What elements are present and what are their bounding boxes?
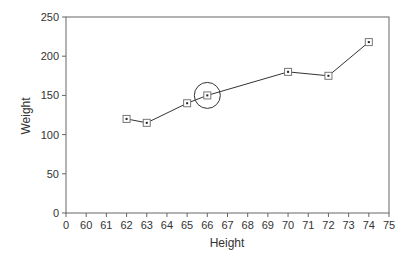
x-tick-label: 67 [221, 219, 233, 231]
x-tick-label: 65 [181, 219, 193, 231]
x-tick-label: 61 [100, 219, 112, 231]
x-tick-label: 75 [383, 219, 395, 231]
x-tick-label: 63 [141, 219, 153, 231]
axes: 0606162636465666768697071727374750501001… [41, 11, 395, 231]
data-point-dot [206, 94, 208, 96]
x-tick-label: 0 [63, 219, 69, 231]
x-tick-label: 70 [282, 219, 294, 231]
y-tick-label: 100 [41, 129, 59, 141]
y-tick-label: 250 [41, 11, 59, 23]
x-tick-label: 73 [343, 219, 355, 231]
x-tick-label: 69 [262, 219, 274, 231]
x-tick-label: 72 [322, 219, 334, 231]
data-point-dot [287, 71, 289, 73]
y-tick-label: 150 [41, 89, 59, 101]
x-tick-label: 71 [302, 219, 314, 231]
y-axis-title: Weight [19, 97, 33, 135]
series-line [127, 42, 369, 123]
x-tick-label: 60 [80, 219, 92, 231]
x-tick-label: 74 [363, 219, 375, 231]
data-point-dot [327, 75, 329, 77]
x-tick-label: 68 [242, 219, 254, 231]
scatter-line-chart: 0606162636465666768697071727374750501001… [0, 0, 415, 266]
data-series [123, 39, 372, 127]
data-point-dot [186, 102, 188, 104]
y-tick-label: 0 [53, 207, 59, 219]
data-point-dot [368, 41, 370, 43]
y-tick-label: 200 [41, 50, 59, 62]
y-tick-label: 50 [47, 168, 59, 180]
x-tick-label: 64 [161, 219, 173, 231]
plot-frame [66, 17, 389, 213]
data-point-dot [126, 118, 128, 120]
x-tick-label: 66 [201, 219, 213, 231]
data-point-dot [146, 122, 148, 124]
x-tick-label: 62 [120, 219, 132, 231]
x-axis-title: Height [210, 236, 245, 250]
